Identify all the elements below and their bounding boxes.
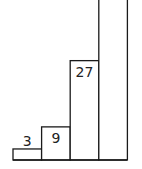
data-label-1: 3: [23, 133, 32, 149]
data-label-2: 9: [51, 130, 60, 146]
bar-4: [99, 0, 128, 160]
data-label-3: 27: [76, 64, 94, 80]
bar-chart: 3927: [0, 0, 142, 169]
bar-1: [13, 149, 42, 160]
